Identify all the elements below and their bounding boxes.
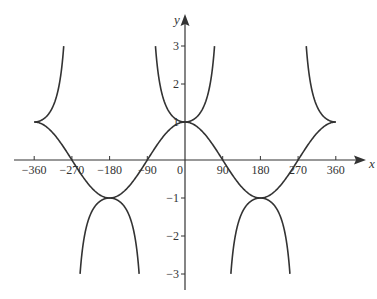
x-tick-label: 90 <box>217 163 229 177</box>
x-tick-label: 360 <box>327 163 345 177</box>
x-axis-label: x <box>368 156 375 171</box>
x-tick-label: −270 <box>60 163 85 177</box>
y-tick-label: 3 <box>173 39 179 53</box>
sec-curve-branch <box>80 198 139 274</box>
sec-curve-branch <box>231 198 290 274</box>
x-tick-label: −180 <box>97 163 122 177</box>
y-axis-label: y <box>172 12 180 27</box>
y-tick-label: −2 <box>166 229 179 243</box>
y-tick-label: 1 <box>173 115 179 129</box>
x-ticks: −360−270−180−90090180270360 <box>22 156 345 177</box>
sec-curve-branch <box>306 46 336 122</box>
y-tick-label: 2 <box>173 77 179 91</box>
x-tick-label: 0 <box>177 163 183 177</box>
x-tick-label: 180 <box>251 163 269 177</box>
x-tick-label: −360 <box>22 163 47 177</box>
y-axis: y <box>172 12 190 290</box>
x-tick-label: 270 <box>289 163 307 177</box>
cos-sec-graph: x y −360−270−180−90090180270360 321−1−2−… <box>0 0 377 299</box>
y-tick-label: −3 <box>166 267 179 281</box>
y-tick-label: −1 <box>166 191 179 205</box>
sec-curve-branch <box>34 46 64 122</box>
x-tick-label: −90 <box>138 163 157 177</box>
